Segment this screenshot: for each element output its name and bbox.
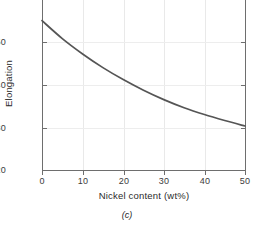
- series-line-elongation: [42, 21, 245, 126]
- x-tick-50: [245, 171, 246, 175]
- figure-caption: (c): [0, 210, 254, 220]
- x-tick-label-50: 50: [240, 176, 250, 186]
- elongation-vs-nickel-chart: 0 10 20 30 40 50 50 40 30 20 Nickel cont…: [0, 0, 254, 228]
- x-tick-10: [83, 171, 84, 175]
- x-tick-label-30: 30: [159, 176, 169, 186]
- x-tick-label-0: 0: [39, 176, 44, 186]
- x-tick-label-20: 20: [119, 176, 129, 186]
- x-axis-title: Nickel content (wt%): [42, 190, 246, 201]
- x-tick-label-40: 40: [200, 176, 210, 186]
- x-tick-label-10: 10: [78, 176, 88, 186]
- plot-area: [42, 0, 246, 171]
- elongation-curve: [42, 0, 246, 171]
- x-tick-20: [124, 171, 125, 175]
- y-axis-title: Elongation: [3, 39, 14, 129]
- x-tick-30: [164, 171, 165, 175]
- x-tick-40: [205, 171, 206, 175]
- x-tick-0: [42, 171, 43, 175]
- y-tick-label-20: 20: [0, 165, 6, 175]
